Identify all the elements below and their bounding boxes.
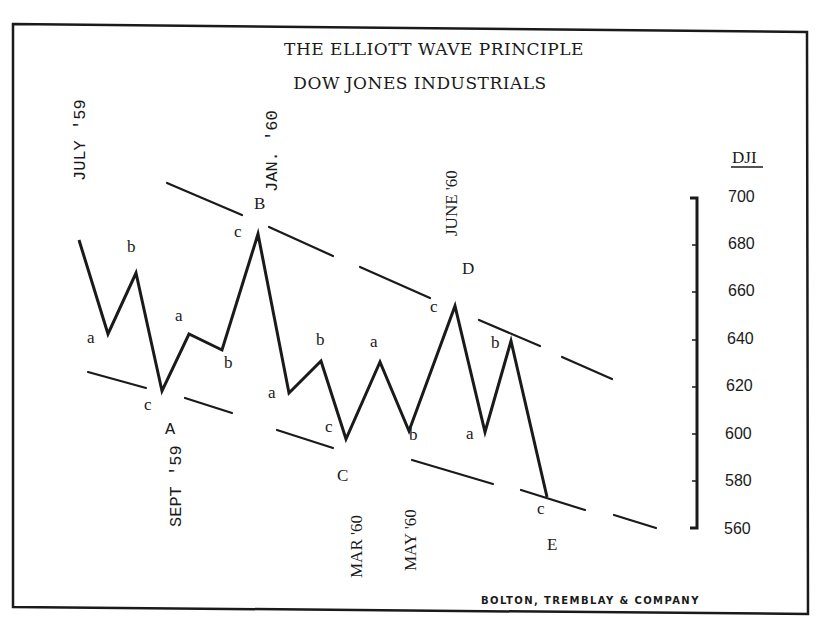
subwave-labels: a b c a b c a b c a b c a b c bbox=[87, 222, 545, 518]
svg-text:580: 580 bbox=[725, 472, 752, 489]
svg-text:JUNE '60: JUNE '60 bbox=[442, 170, 461, 236]
svg-text:JAN. '60: JAN. '60 bbox=[263, 110, 282, 192]
y-axis-label: DJI bbox=[732, 148, 757, 167]
svg-text:c: c bbox=[144, 395, 152, 414]
svg-text:b: b bbox=[127, 237, 136, 256]
svg-text:b: b bbox=[491, 333, 500, 352]
svg-text:a: a bbox=[268, 383, 276, 402]
svg-text:560: 560 bbox=[724, 520, 751, 537]
svg-text:a: a bbox=[370, 332, 378, 351]
svg-text:B: B bbox=[254, 194, 265, 213]
svg-text:E: E bbox=[547, 535, 557, 554]
chart-subtitle: DOW JONES INDUSTRIALS bbox=[293, 73, 546, 93]
svg-text:c: c bbox=[234, 222, 242, 241]
svg-text:680: 680 bbox=[728, 235, 755, 252]
svg-text:640: 640 bbox=[727, 330, 754, 347]
svg-text:SEPT '59: SEPT '59 bbox=[167, 445, 186, 527]
y-tick-labels: 700 680 660 640 620 600 580 560 bbox=[724, 188, 755, 537]
credit-text: BOLTON, TREMBLAY & COMPANY bbox=[481, 595, 700, 606]
svg-text:b: b bbox=[224, 353, 233, 372]
svg-text:C: C bbox=[337, 466, 348, 485]
svg-text:c: c bbox=[430, 297, 438, 316]
svg-text:MAY '60: MAY '60 bbox=[401, 509, 420, 571]
svg-text:A: A bbox=[165, 420, 176, 439]
svg-text:620: 620 bbox=[726, 377, 753, 394]
svg-text:c: c bbox=[537, 499, 545, 518]
svg-text:a: a bbox=[466, 424, 474, 443]
y-axis bbox=[690, 198, 697, 528]
chart-figure: THE ELLIOTT WAVE PRINCIPLE DOW JONES IND… bbox=[0, 0, 821, 632]
svg-text:c: c bbox=[325, 417, 333, 436]
svg-text:D: D bbox=[462, 259, 474, 278]
svg-text:a: a bbox=[175, 306, 183, 325]
chart-title: THE ELLIOTT WAVE PRINCIPLE bbox=[284, 39, 584, 59]
svg-text:JULY '59: JULY '59 bbox=[71, 99, 90, 181]
upper-channel-line bbox=[167, 183, 612, 379]
svg-text:a: a bbox=[87, 328, 95, 347]
svg-text:MAR '60: MAR '60 bbox=[347, 515, 366, 578]
svg-text:b: b bbox=[316, 330, 325, 349]
major-point-labels: A B C D E bbox=[165, 194, 557, 554]
svg-text:b: b bbox=[409, 425, 418, 444]
svg-text:600: 600 bbox=[725, 425, 752, 442]
date-labels: JULY '59 JAN. '60 JUNE '60 SEPT '59 MAR … bbox=[71, 99, 461, 578]
svg-text:660: 660 bbox=[728, 282, 755, 299]
svg-text:700: 700 bbox=[728, 188, 755, 205]
dji-wave-line bbox=[79, 234, 547, 497]
